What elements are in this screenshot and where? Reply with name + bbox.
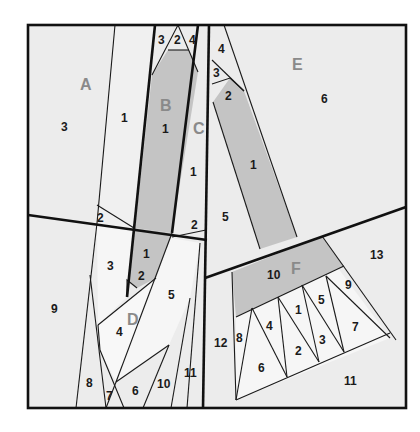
piece-C1: 1	[190, 165, 197, 179]
section-label-E: E	[292, 56, 303, 73]
piece-E1: 1	[250, 158, 257, 172]
piece-D6: 6	[132, 384, 139, 398]
piece-E5: 5	[222, 210, 229, 224]
piece-D10: 10	[157, 377, 171, 391]
piece-D7: 7	[106, 389, 113, 403]
piece-F2: 2	[295, 344, 302, 358]
section-label-B: B	[160, 97, 172, 114]
piece-F6: 6	[258, 361, 265, 375]
piece-F5: 5	[318, 293, 325, 307]
piece-E3: 3	[213, 66, 220, 80]
piece-D5: 5	[168, 288, 175, 302]
piece-F9: 9	[345, 278, 352, 292]
piece-D1: 1	[143, 247, 150, 261]
piece-D8: 8	[86, 376, 93, 390]
pattern-diagram: A B C D E F 3 1 2 3 2 4 1 1 2 1 2 3 4 5 …	[0, 0, 420, 432]
piece-F3: 3	[319, 333, 326, 347]
piece-B4: 4	[189, 33, 196, 47]
piece-F13: 13	[370, 248, 384, 262]
section-label-A: A	[80, 76, 92, 93]
piece-E2: 2	[225, 89, 232, 103]
piece-A2: 2	[97, 211, 104, 225]
piece-D11: 11	[184, 366, 197, 380]
piece-F11: 11	[344, 374, 357, 388]
piece-A3: 3	[61, 120, 68, 134]
section-label-C: C	[193, 120, 205, 137]
piece-D4: 4	[116, 325, 123, 339]
piece-D9: 9	[51, 302, 58, 316]
piece-F8: 8	[236, 331, 243, 345]
piece-B2: 2	[174, 33, 181, 47]
piece-E6: 6	[321, 92, 328, 106]
piece-F7: 7	[352, 320, 359, 334]
piece-F4: 4	[266, 319, 273, 333]
piece-D2: 2	[138, 269, 145, 283]
piece-B3: 3	[158, 33, 165, 47]
piece-F12: 12	[214, 336, 228, 350]
piece-F10: 10	[267, 268, 281, 282]
piece-A1: 1	[121, 111, 128, 125]
section-label-D: D	[127, 311, 139, 328]
piece-D3: 3	[107, 259, 114, 273]
piece-F1: 1	[295, 303, 302, 317]
piece-C2: 2	[191, 218, 198, 232]
section-label-F: F	[291, 260, 301, 277]
piece-B1: 1	[162, 122, 169, 136]
piece-E4: 4	[218, 42, 225, 56]
